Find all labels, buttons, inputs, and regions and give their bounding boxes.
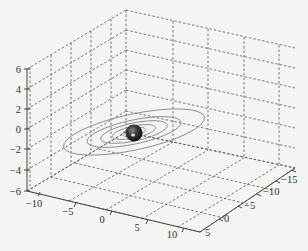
svg-text:10: 10: [167, 229, 178, 240]
svg-text:0: 0: [224, 213, 229, 224]
svg-text:−10: −10: [263, 186, 279, 197]
svg-text:5: 5: [205, 227, 210, 238]
svg-text:−5: −5: [244, 200, 255, 211]
svg-text:5: 5: [134, 222, 139, 233]
svg-text:−6: −6: [10, 186, 21, 197]
y-tick-labels: 5 0 −5 −10 −15: [205, 174, 297, 238]
svg-text:0: 0: [99, 214, 104, 225]
svg-text:6: 6: [16, 64, 21, 75]
svg-text:−4: −4: [10, 165, 22, 176]
x-axis-line: [27, 191, 200, 232]
svg-text:−2: −2: [10, 144, 21, 155]
orbit-3d-chart: 6 4 2 0 −2 −4 −6 −10 −5 0 5 10 5 0 −5 −1…: [0, 0, 308, 251]
floor-grid: [27, 132, 295, 232]
svg-text:4: 4: [16, 84, 22, 95]
sphere-highlight: [131, 134, 135, 137]
svg-text:−15: −15: [281, 174, 297, 185]
z-tick-labels: 6 4 2 0 −2 −4 −6: [10, 64, 22, 197]
svg-text:−10: −10: [26, 198, 42, 209]
x-tick-labels: −10 −5 0 5 10: [26, 198, 177, 240]
svg-text:−5: −5: [62, 206, 73, 217]
svg-text:0: 0: [16, 124, 21, 135]
central-sphere: [126, 125, 143, 142]
svg-text:2: 2: [16, 104, 21, 115]
